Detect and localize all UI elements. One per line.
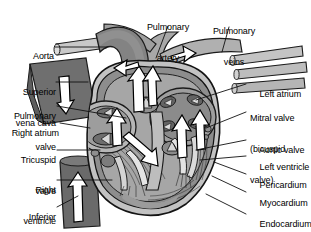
label-inferior-vena-cava: Inferior vena cava — [0, 192, 56, 232]
label-pulmonary-veins: Pulmonary veins — [198, 6, 270, 88]
label-ivc-line-1: Inferior — [0, 212, 56, 222]
label-endocardium: Endocardium — [250, 209, 311, 232]
label-endocardium-line-1: Endocardium — [260, 219, 311, 229]
papillary-muscle-small — [91, 150, 99, 157]
label-myocardium-line-1: Myocardium — [260, 198, 308, 208]
leader-myocardium — [212, 176, 246, 192]
label-mitral-line-1: Mitral valve — [250, 113, 294, 123]
label-pulm-veins-line-1: Pulmonary — [198, 26, 270, 36]
leader-endocardium — [206, 194, 246, 214]
label-pulm-veins-line-2: veins — [198, 57, 270, 67]
label-aorta-line-1: Aorta — [33, 51, 54, 61]
leader-right-atrium — [60, 123, 90, 128]
papillary-muscle — [101, 155, 115, 167]
leader-pericardium — [214, 162, 246, 174]
heart-anatomy-figure: Aorta Superior vena cava Pulmonary valve… — [0, 0, 311, 232]
